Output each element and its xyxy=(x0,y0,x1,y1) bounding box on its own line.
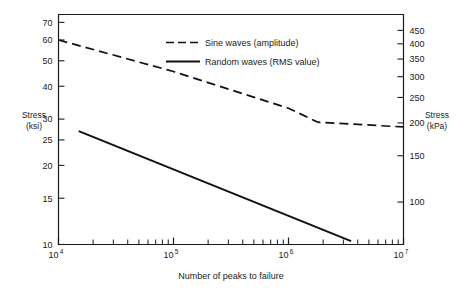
y-tick-label-right: 450 xyxy=(410,26,425,36)
y-tick-label-left: 15 xyxy=(42,194,52,204)
y-tick-label-right: 200 xyxy=(410,118,425,128)
legend-label-random-waves: Random waves (RMS value) xyxy=(205,57,320,67)
y-tick-label-right: 100 xyxy=(410,197,425,207)
x-tick-label-exponent: 4 xyxy=(60,248,64,255)
x-tick-label-base: 10 xyxy=(393,250,403,260)
y-tick-label-right: 250 xyxy=(410,93,425,103)
y-axis-right-title: Stress (kPa) xyxy=(425,110,449,131)
y-axis-left-title-line2: (ksi) xyxy=(26,121,42,131)
x-tick-label-base: 10 xyxy=(163,250,173,260)
y-axis-left-title-line1: Stress xyxy=(22,110,46,120)
y-axis-right-title-line1: Stress xyxy=(425,110,449,120)
x-tick-label-exponent: 5 xyxy=(175,248,179,255)
y-tick-label-left: 25 xyxy=(42,135,52,145)
y-tick-label-left: 20 xyxy=(42,161,52,171)
x-tick-label-exponent: 6 xyxy=(290,248,294,255)
y-tick-label-left: 10 xyxy=(42,240,52,250)
y-tick-label-right: 400 xyxy=(410,39,425,49)
legend-label-sine-waves: Sine waves (amplitude) xyxy=(205,38,299,48)
fatigue-sn-chart: 706050403025201510 450400350300250200150… xyxy=(0,0,456,291)
y-tick-label-left: 50 xyxy=(42,56,52,66)
y-tick-label-right: 300 xyxy=(410,72,425,82)
y-tick-label-left: 70 xyxy=(42,18,52,28)
chart-svg: 706050403025201510 450400350300250200150… xyxy=(0,0,456,291)
x-tick-label-base: 10 xyxy=(278,250,288,260)
y-tick-label-left: 60 xyxy=(42,35,52,45)
x-axis-title: Number of peaks to failure xyxy=(178,271,284,281)
x-tick-label-base: 10 xyxy=(48,250,58,260)
y-tick-label-right: 150 xyxy=(410,151,425,161)
x-tick-label-exponent: 7 xyxy=(405,248,409,255)
y-tick-label-left: 40 xyxy=(42,82,52,92)
y-tick-label-right: 350 xyxy=(410,54,425,64)
y-axis-right-title-line2: (kPa) xyxy=(427,121,447,131)
